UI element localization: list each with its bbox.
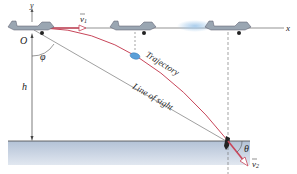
- trajectory-label: Trajectory: [144, 49, 181, 77]
- line-of-sight-label: Line of sight: [130, 81, 175, 113]
- height-arrow: h: [22, 33, 34, 141]
- theta-label: θ: [244, 143, 249, 154]
- height-label: h: [22, 81, 27, 92]
- phi-label: φ: [40, 51, 46, 62]
- v1-label: v1: [80, 14, 87, 24]
- airplane-icon: [110, 21, 156, 35]
- y-axis-label: y: [29, 1, 34, 10]
- line-of-sight: Line of sight: [34, 30, 226, 141]
- airplane-icon: [8, 21, 54, 35]
- origin-label: O: [20, 35, 27, 46]
- water-surface: [8, 141, 250, 165]
- x-axis-label: x: [285, 23, 290, 33]
- projectile-drop-diagram: x y O h φ Line of sight Trajectory v1: [0, 0, 297, 174]
- capsule-icon: [129, 52, 140, 60]
- v2-label: v2: [252, 159, 259, 169]
- phi-angle: φ: [32, 44, 54, 62]
- y-axis: y: [29, 1, 34, 22]
